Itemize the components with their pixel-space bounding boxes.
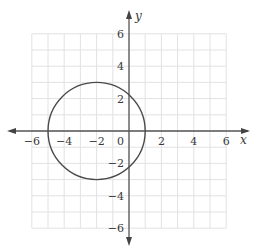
x-tick-label: 4 [190,135,197,148]
y-tick-label: −2 [108,157,124,170]
y-tick-label: 2 [117,93,124,106]
x-tick-label: −2 [88,135,104,148]
y-axis-label: y [134,9,142,23]
y-axis-up-arrow-icon [126,10,132,19]
x-axis-label: x [240,133,247,147]
x-tick-label: 6 [223,135,230,148]
x-tick-label: −6 [24,135,40,148]
y-tick-label: −6 [108,222,124,235]
axes [7,10,250,246]
y-tick-label: −4 [108,190,124,203]
x-tick-label: 2 [158,135,165,148]
y-axis-down-arrow-icon [126,237,132,246]
x-tick-label: 0 [117,135,124,148]
y-tick-label: 6 [117,28,124,41]
x-axis-left-arrow-icon [7,128,16,134]
y-tick-label: 4 [117,60,124,73]
coordinate-plane: −6−4−20246−6−4−2246 x y [0,0,255,250]
x-tick-label: −4 [56,135,72,148]
